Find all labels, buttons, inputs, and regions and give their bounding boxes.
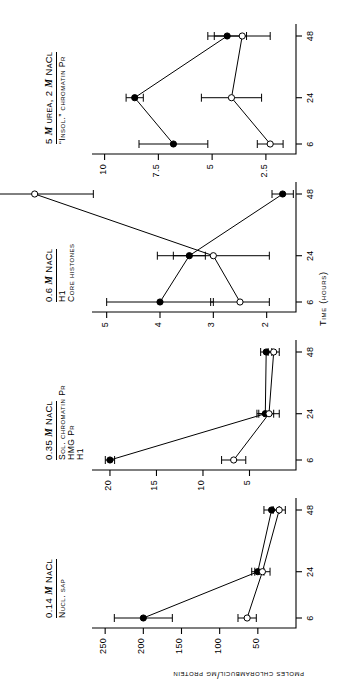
panel-axes-3: [92, 24, 302, 160]
open-circle-marker: [266, 411, 272, 417]
open-circle-marker: [259, 569, 265, 575]
x-tick-label: 6: [305, 451, 315, 469]
y-tick-label: 2: [260, 322, 270, 358]
open-circle-marker: [32, 191, 38, 197]
y-tick-label: 20: [103, 480, 113, 516]
open-circle-marker: [228, 95, 234, 101]
y-tick-label: 15: [149, 480, 159, 516]
y-tick-label: 100: [213, 638, 223, 674]
x-tick-label: 48: [305, 185, 315, 203]
x-tick-label: 24: [305, 89, 315, 107]
x-tick-label: 48: [305, 27, 315, 45]
y-tick-label: 2.5: [259, 164, 269, 200]
panel-axes-0: [92, 498, 302, 634]
x-tick-label: 48: [305, 501, 315, 519]
open-circle-marker: [239, 33, 245, 39]
y-tick-label: 5: [205, 164, 215, 200]
y-tick-label: 150: [174, 638, 184, 674]
filled-circle-marker: [132, 95, 138, 101]
filled-circle-marker: [170, 141, 176, 147]
open-circle-marker: [271, 349, 277, 355]
x-tick-label: 24: [305, 247, 315, 265]
open-circle-marker: [276, 507, 282, 513]
panel-axes-1: [92, 340, 302, 476]
filled-circle-marker: [157, 299, 163, 305]
filled-circle-marker: [140, 615, 146, 621]
y-tick-label: 10: [98, 164, 108, 200]
y-tick-label: 250: [98, 638, 108, 674]
x-tick-label: 24: [305, 405, 315, 423]
y-tick-label: 50: [251, 638, 261, 674]
open-circle-marker: [237, 299, 243, 305]
y-tick-label: 3: [206, 322, 216, 358]
x-tick-label: 6: [305, 293, 315, 311]
y-tick-label: 10: [196, 480, 206, 516]
open-circle-marker: [244, 615, 250, 621]
y-tick-label: 5: [242, 480, 252, 516]
filled-circle-marker: [107, 457, 113, 463]
filled-circle-marker: [280, 191, 286, 197]
y-tick-label: 200: [136, 638, 146, 674]
open-circle-marker: [210, 253, 216, 259]
x-tick-label: 48: [305, 343, 315, 361]
y-axis-title: pmoles chlorambucil/mg protein: [173, 670, 304, 680]
x-tick-label: 6: [305, 609, 315, 627]
y-tick-label: 4: [153, 322, 163, 358]
open-circle-marker: [267, 141, 273, 147]
open-circle-marker: [231, 457, 237, 463]
x-tick-label: 24: [305, 563, 315, 581]
panel-axes-2: [0, 182, 302, 318]
y-tick-label: 5: [100, 322, 110, 358]
y-tick-label: 7.5: [151, 164, 161, 200]
x-tick-label: 6: [305, 135, 315, 153]
